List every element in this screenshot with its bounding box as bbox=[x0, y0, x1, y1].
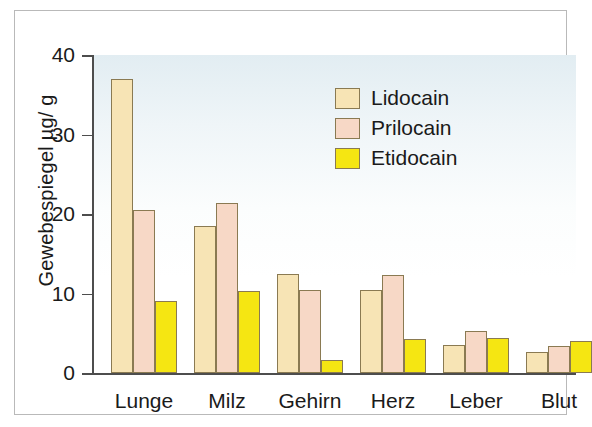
category-label-milz: Milz bbox=[208, 389, 245, 413]
y-axis-tick-label: 40 bbox=[52, 43, 75, 67]
y-axis-tick: 10 bbox=[82, 294, 92, 296]
bar-gehirn-etidocain bbox=[321, 360, 343, 373]
bar-leber-lidocain bbox=[443, 345, 465, 373]
bar-blut-etidocain bbox=[570, 341, 592, 373]
legend-swatch-prilocain bbox=[335, 118, 360, 139]
y-axis-tick: 30 bbox=[82, 135, 92, 137]
bar-herz-lidocain bbox=[360, 290, 382, 373]
y-axis-tick: 0 bbox=[82, 373, 92, 375]
bar-lunge-lidocain bbox=[111, 79, 133, 373]
bar-leber-etidocain bbox=[487, 338, 509, 373]
legend-swatch-lidocain bbox=[335, 88, 360, 109]
bar-blut-lidocain bbox=[526, 352, 548, 373]
y-axis-tick-label: 20 bbox=[52, 202, 75, 226]
legend-item-prilocain: Prilocain bbox=[335, 113, 457, 143]
legend: LidocainPrilocainEtidocain bbox=[335, 83, 457, 173]
bar-herz-prilocain bbox=[382, 275, 404, 373]
category-label-gehirn: Gehirn bbox=[278, 389, 341, 413]
bar-lunge-etidocain bbox=[155, 301, 177, 373]
y-axis-tick-label: 0 bbox=[63, 361, 75, 385]
legend-swatch-etidocain bbox=[335, 148, 360, 169]
bar-herz-etidocain bbox=[404, 339, 426, 373]
bar-gehirn-prilocain bbox=[299, 290, 321, 373]
bar-milz-lidocain bbox=[194, 226, 216, 373]
category-label-blut: Blut bbox=[541, 389, 577, 413]
y-axis-tick-label: 30 bbox=[52, 122, 75, 146]
legend-item-lidocain: Lidocain bbox=[335, 83, 457, 113]
category-label-lunge: Lunge bbox=[115, 389, 173, 413]
y-axis-tick: 20 bbox=[82, 214, 92, 216]
bar-milz-etidocain bbox=[238, 291, 260, 373]
figure-frame: Gewebespiegel µg/ g 010203040 LungeMilzG… bbox=[14, 10, 567, 415]
legend-label-prilocain: Prilocain bbox=[371, 116, 452, 140]
y-axis-tick-label: 10 bbox=[52, 281, 75, 305]
plot-area: 010203040 LungeMilzGehirnHerzLeberBlut bbox=[92, 55, 576, 373]
y-axis-tick: 40 bbox=[82, 55, 92, 57]
legend-item-etidocain: Etidocain bbox=[335, 143, 457, 173]
category-label-herz: Herz bbox=[371, 389, 415, 413]
bar-blut-prilocain bbox=[548, 346, 570, 373]
bar-gehirn-lidocain bbox=[277, 274, 299, 373]
legend-label-etidocain: Etidocain bbox=[371, 146, 457, 170]
legend-label-lidocain: Lidocain bbox=[371, 86, 449, 110]
bar-milz-prilocain bbox=[216, 203, 238, 373]
bar-leber-prilocain bbox=[465, 331, 487, 373]
bar-lunge-prilocain bbox=[133, 210, 155, 373]
y-axis-label: Gewebespiegel µg/ g bbox=[35, 76, 58, 306]
x-axis-line bbox=[82, 373, 576, 375]
category-label-leber: Leber bbox=[449, 389, 503, 413]
bar-series-container bbox=[92, 55, 576, 373]
